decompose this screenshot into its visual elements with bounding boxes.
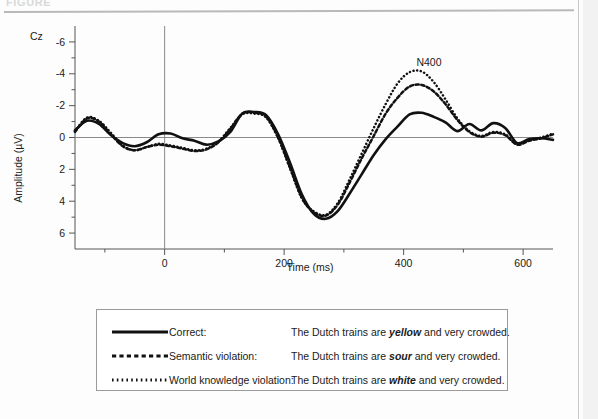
erp-waveform-chart: -6-4-202460200400600 Amplitude (µV) Time…: [0, 18, 578, 293]
y-tick-label: 6: [59, 227, 65, 239]
y-tick-label: 0: [59, 131, 65, 143]
legend-label-world-knowledge-violation: World knowledge violation:: [169, 374, 291, 386]
legend-swatch-dotted-line: [111, 374, 169, 386]
legend-row: World knowledge violation: The Dutch tra…: [97, 368, 507, 392]
legend-swatch-dashed-line: [111, 350, 169, 362]
figure-caption-partial: FIGURE: [6, 0, 51, 8]
legend-swatch-solid-line: [111, 326, 169, 338]
x-tick-label: 0: [162, 257, 168, 269]
legend-sentence-post: and very crowded.: [412, 350, 501, 362]
y-axis-title: Amplitude (µV): [12, 133, 24, 203]
y-tick-label: -4: [56, 67, 65, 79]
x-tick-label: 600: [514, 257, 532, 269]
legend-critical-word: white: [389, 374, 416, 386]
legend-row: Correct: The Dutch trains are yellow and…: [97, 320, 507, 344]
tick-marks-group: [69, 42, 523, 255]
legend-label-correct: Correct:: [169, 326, 291, 338]
caption-horizontal-rule: [4, 9, 574, 13]
legend-box: Correct: The Dutch trains are yellow and…: [96, 309, 508, 391]
legend-critical-word: yellow: [389, 326, 421, 338]
legend-sentence-pre: The Dutch trains are: [291, 374, 389, 386]
y-tick-label: -2: [56, 99, 65, 111]
legend-label-semantic-violation: Semantic violation:: [169, 350, 291, 362]
legend-sentence-post: and very crowded.: [421, 326, 510, 338]
y-tick-label: 2: [59, 163, 65, 175]
tick-labels-group: -6-4-202460200400600: [56, 36, 532, 269]
waveform-semantic-violation: [75, 85, 553, 217]
legend-critical-word: sour: [389, 350, 412, 362]
legend-sentence-pre: The Dutch trains are: [291, 350, 389, 362]
y-tick-label: 4: [59, 195, 65, 207]
waveform-correct: [75, 111, 553, 218]
legend-sentence-pre: The Dutch trains are: [291, 326, 389, 338]
legend-sentence-semantic-violation: The Dutch trains are sour and very crowd…: [291, 350, 507, 362]
x-axis-title: Time (ms): [287, 261, 334, 273]
legend-sentence-correct: The Dutch trains are yellow and very cro…: [291, 326, 510, 338]
n400-annotation-label: N400: [416, 56, 441, 68]
channel-label: Cz: [30, 30, 43, 42]
x-tick-label: 400: [395, 257, 413, 269]
erp-plot: -6-4-202460200400600 Amplitude (µV) Time…: [0, 18, 578, 293]
y-tick-label: -6: [56, 36, 65, 48]
figure-page: FIGURE -6-4-202460200400600 Amplitude (µ…: [0, 0, 598, 419]
page-margin-strip: [583, 0, 598, 419]
waveform-traces-group: [75, 70, 553, 218]
legend-sentence-post: and very crowded.: [416, 374, 505, 386]
legend-row: Semantic violation: The Dutch trains are…: [97, 344, 507, 368]
page-edge-line: [578, 0, 579, 419]
legend-sentence-world-knowledge-violation: The Dutch trains are white and very crow…: [291, 374, 507, 386]
